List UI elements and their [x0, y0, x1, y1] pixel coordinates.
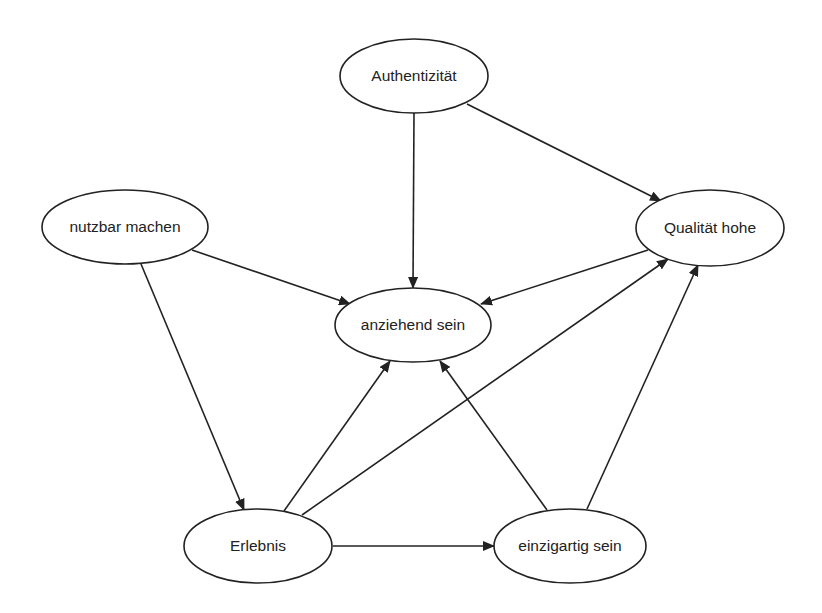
- edge-nutzbar-to-erlebnis: [141, 264, 244, 510]
- node-anziehend: anziehend sein: [335, 288, 491, 362]
- nodes-layer: Authentizitätnutzbar machenQualität hohe…: [42, 39, 784, 583]
- node-authentizitaet: Authentizität: [340, 39, 488, 113]
- edge-nutzbar-to-anziehend: [192, 250, 350, 304]
- node-qualitaet: Qualität hohe: [636, 190, 784, 266]
- edge-einzigartig-to-anziehend: [440, 361, 547, 510]
- node-label: Authentizität: [371, 67, 457, 84]
- edge-authentizitaet-to-qualitaet: [467, 104, 661, 201]
- edge-erlebnis-to-anziehend: [284, 361, 390, 511]
- edge-erlebnis-to-qualitaet: [302, 259, 668, 515]
- node-erlebnis: Erlebnis: [184, 509, 332, 583]
- node-label: Erlebnis: [230, 537, 286, 554]
- concept-graph: Authentizitätnutzbar machenQualität hohe…: [0, 0, 822, 613]
- node-label: einzigartig sein: [518, 537, 621, 554]
- edge-authentizitaet-to-anziehend: [413, 113, 414, 288]
- node-label: nutzbar machen: [69, 218, 180, 235]
- node-label: Qualität hohe: [664, 219, 756, 236]
- edge-einzigartig-to-qualitaet: [587, 265, 698, 509]
- edge-qualitaet-to-anziehend: [481, 250, 648, 304]
- node-einzigartig: einzigartig sein: [494, 509, 646, 583]
- node-nutzbar: nutzbar machen: [42, 190, 208, 264]
- node-label: anziehend sein: [361, 316, 465, 333]
